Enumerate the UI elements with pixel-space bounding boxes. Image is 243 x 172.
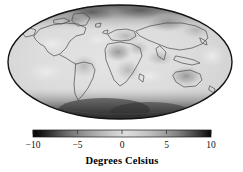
map-panel [0, 0, 243, 124]
anomaly-blob-west-pacific-light [198, 44, 226, 68]
colorbar-tick-label-zero: 0 [120, 140, 125, 150]
anomaly-blob-north-atlantic-light [84, 32, 112, 48]
colorbar-tick-label-5: 5 [164, 140, 169, 150]
anomaly-blob-north-pacific-light [32, 33, 72, 55]
colorbar: −10 −5 0 5 10 Degrees Celsius [0, 124, 243, 172]
mollweide-map [0, 0, 243, 124]
colorbar-title: Degrees Celsius [85, 155, 158, 166]
anomaly-blob-india [146, 50, 174, 66]
anomaly-blob-australia [170, 66, 202, 86]
colorbar-tick-label-10: 10 [206, 140, 216, 150]
anomaly-blob-south-pacific-light [24, 60, 68, 84]
colorbar-tick-label-minus5: −5 [72, 140, 82, 150]
anomaly-blob-arabia [127, 40, 149, 56]
colorbar-tick-label-minus10: −10 [26, 140, 41, 150]
colorbar-panel: −10 −5 0 5 10 Degrees Celsius [0, 124, 243, 172]
figure-panel: −10 −5 0 5 10 Degrees Celsius [0, 0, 243, 172]
anomaly-blob-indian-ocean-light [132, 67, 168, 85]
